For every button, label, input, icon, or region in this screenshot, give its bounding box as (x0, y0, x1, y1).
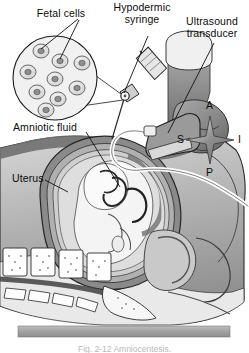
cable-connector (144, 126, 156, 136)
fetal-cell (50, 92, 66, 106)
compass-label-inferior: I (238, 133, 241, 145)
fetal-cell (29, 85, 45, 99)
syringe-barrel (135, 45, 167, 81)
figure-caption: Fig. 2-12 Amniocentesis. (0, 344, 249, 353)
fetal-cell (69, 81, 85, 95)
compass-label-superior: S (177, 133, 184, 145)
hypodermic-syringe-graphic (112, 45, 168, 139)
compass-label-anterior: A (206, 99, 213, 111)
label-fetal-cells: Fetal cells (22, 8, 100, 20)
fetal-cell-inset (13, 36, 123, 120)
label-hypodermic-syringe: Hypodermic syringe (104, 2, 180, 25)
fetal-cell (47, 72, 63, 86)
fetal-cell (33, 44, 49, 58)
fetal-cell (38, 103, 54, 117)
label-amniotic-fluid: Amniotic fluid (13, 122, 77, 134)
fetal-cell (52, 54, 68, 68)
fetal-cell (20, 65, 36, 79)
examination-table (18, 326, 230, 337)
fetal-limb-segment (112, 236, 124, 252)
label-uterus: Uterus (12, 173, 44, 185)
compass-label-posterior: P (206, 166, 213, 178)
label-ultrasound-transducer: Ultrasound transducer (176, 16, 248, 39)
fetal-cell (74, 56, 90, 70)
